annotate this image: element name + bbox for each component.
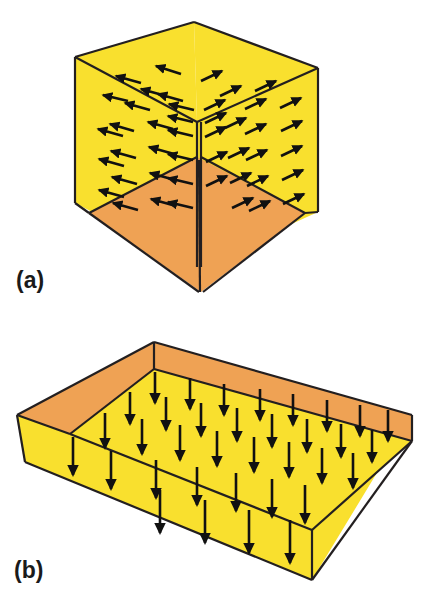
edge-right-wall-bottom: [305, 212, 318, 213]
edge-floor-center-vertical: [199, 160, 200, 292]
panel-a-label: (a): [16, 267, 44, 293]
physics-figure: (a): [0, 0, 427, 603]
figure-container: (a): [0, 0, 427, 603]
panel-b-label: (b): [14, 557, 43, 583]
